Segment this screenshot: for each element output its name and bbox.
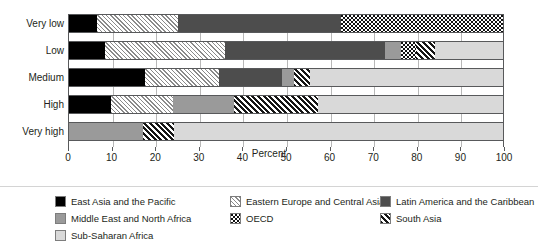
bar-segment-sa (143, 123, 175, 140)
legend-label: OECD (246, 213, 273, 224)
bar-row-low (69, 41, 503, 60)
legend-label: Eastern Europe and Central Asia (246, 196, 384, 207)
legend-item-oecd[interactable]: OECD (230, 213, 380, 224)
legend-swatch-ssa-icon (55, 230, 66, 241)
bar-segment-lac (178, 15, 341, 32)
stacked-bar-chart: Very lowLowMediumHighVery high 010203040… (0, 0, 538, 180)
x-axis-title: Percent (0, 148, 538, 159)
stacked-bar (69, 123, 503, 140)
legend-item-eeca[interactable]: Eastern Europe and Central Asia (230, 196, 380, 207)
legend-item-ssa[interactable]: Sub-Saharan Africa (55, 230, 230, 241)
legend-swatch-lac-icon (380, 196, 391, 207)
bar-segment-eeca (111, 96, 174, 113)
legend-label: South Asia (396, 213, 441, 224)
legend-item-mena[interactable]: Middle East and North Africa (55, 213, 230, 224)
stacked-bar (69, 96, 503, 113)
legend-swatch-eeca-icon (230, 196, 241, 207)
bar-segment-oecd (401, 42, 416, 59)
bar-segment-sa (416, 42, 435, 59)
bar-segment-ssa (435, 42, 503, 59)
stacked-bar (69, 69, 503, 86)
bar-segment-oecd (341, 15, 503, 32)
stacked-bar (69, 42, 503, 59)
bar-segment-mena (173, 96, 234, 113)
bar-segment-lac (219, 69, 282, 86)
y-axis-labels: Very lowLowMediumHighVery high (0, 14, 64, 147)
legend-item-eap[interactable]: East Asia and the Pacific (55, 196, 230, 207)
bar-segment-ssa (310, 69, 503, 86)
plot-area (68, 14, 504, 147)
y-axis-label-very-low: Very low (2, 18, 64, 29)
y-axis-label-high: High (2, 99, 64, 110)
legend-swatch-mena-icon (55, 213, 66, 224)
y-axis-label-medium: Medium (2, 72, 64, 83)
stacked-bar (69, 15, 503, 32)
bar-segment-eap (69, 15, 97, 32)
bar-row-high (69, 95, 503, 114)
bar-row-very-low (69, 14, 503, 33)
bar-segment-eeca (105, 42, 225, 59)
bar-segment-mena (282, 69, 294, 86)
legend-grid: East Asia and the PacificEastern Europe … (55, 193, 525, 244)
legend-swatch-sa-icon (380, 213, 391, 224)
bar-segment-ssa (174, 123, 503, 140)
bar-segment-mena (69, 123, 143, 140)
legend-item-lac[interactable]: Latin America and the Caribbean (380, 196, 538, 207)
legend-label: Middle East and North Africa (71, 213, 191, 224)
bar-segment-eap (69, 42, 105, 59)
legend-swatch-oecd-icon (230, 213, 241, 224)
bar-row-very-high (69, 122, 503, 141)
y-axis-label-low: Low (2, 45, 64, 56)
bar-segment-eap (69, 96, 111, 113)
legend-label: Sub-Saharan Africa (71, 230, 153, 241)
legend-label: Latin America and the Caribbean (396, 196, 534, 207)
chart-legend: East Asia and the PacificEastern Europe … (0, 186, 538, 246)
bar-row-medium (69, 68, 503, 87)
bar-segment-sa (294, 69, 310, 86)
legend-label: East Asia and the Pacific (71, 196, 176, 207)
bar-segment-ssa (318, 96, 503, 113)
bar-segment-eeca (97, 15, 178, 32)
legend-swatch-eap-icon (55, 196, 66, 207)
bar-segment-eeca (145, 69, 220, 86)
bar-segment-lac (225, 42, 384, 59)
bar-segment-eap (69, 69, 145, 86)
bar-segment-mena (385, 42, 401, 59)
bar-segment-sa (234, 96, 318, 113)
y-axis-label-very-high: Very high (2, 126, 64, 137)
legend-item-sa[interactable]: South Asia (380, 213, 538, 224)
